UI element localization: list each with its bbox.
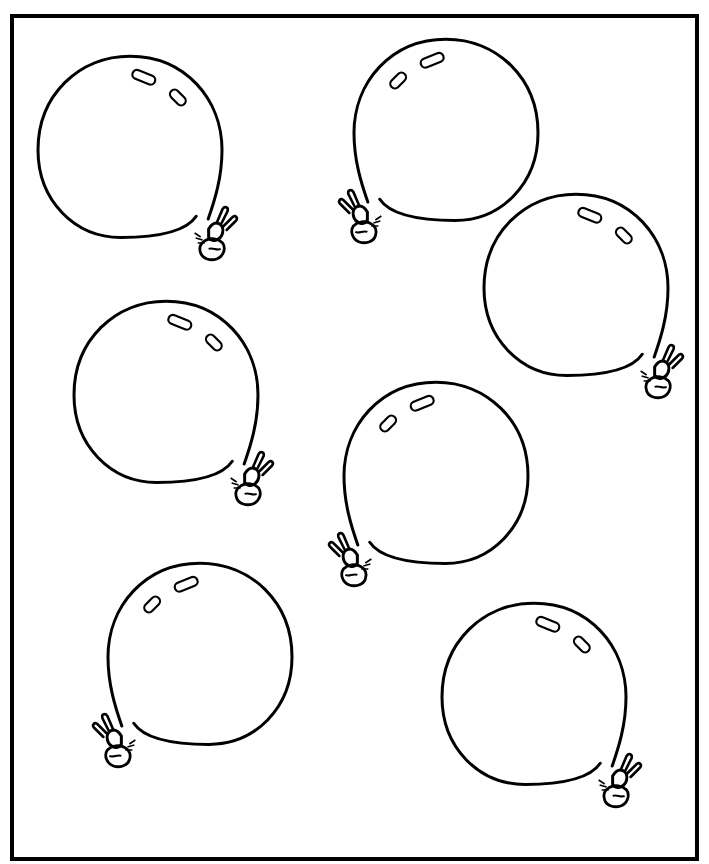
balloon-highlight [572, 635, 592, 655]
balloon-highlight [577, 207, 603, 224]
balloon [93, 563, 292, 767]
balloon-knot [93, 714, 135, 766]
balloon [339, 39, 538, 243]
balloon-knot [641, 345, 683, 397]
balloon-body [484, 194, 668, 375]
balloon-highlight [168, 88, 188, 108]
balloon-body [442, 603, 626, 784]
coloring-page-artwork [0, 0, 709, 864]
balloon-highlight [535, 616, 561, 633]
balloon-highlight [409, 395, 435, 412]
balloon-highlight [378, 414, 398, 434]
balloon-highlight [204, 333, 224, 353]
balloon-knot [329, 533, 371, 585]
balloon [38, 56, 237, 260]
balloon [74, 301, 273, 505]
balloon-knot [231, 452, 273, 504]
balloon-highlight [614, 226, 634, 246]
balloon [329, 382, 528, 586]
balloon-knot [339, 190, 381, 242]
balloon-highlight [419, 52, 445, 69]
balloon-body [344, 382, 528, 563]
balloon-knot [599, 754, 641, 806]
balloon [442, 603, 641, 807]
balloon-highlight [173, 576, 199, 593]
balloon-body [74, 301, 258, 482]
balloons-group [38, 39, 683, 807]
balloon-body [38, 56, 222, 237]
balloon-highlight [167, 314, 193, 331]
balloon [484, 194, 683, 398]
balloon-body [354, 39, 538, 220]
balloon-highlight [142, 595, 162, 615]
balloon-highlight [131, 69, 157, 86]
balloon-knot [195, 207, 237, 259]
balloon-highlight [388, 71, 408, 91]
balloon-body [108, 563, 292, 744]
coloring-page [0, 0, 709, 864]
